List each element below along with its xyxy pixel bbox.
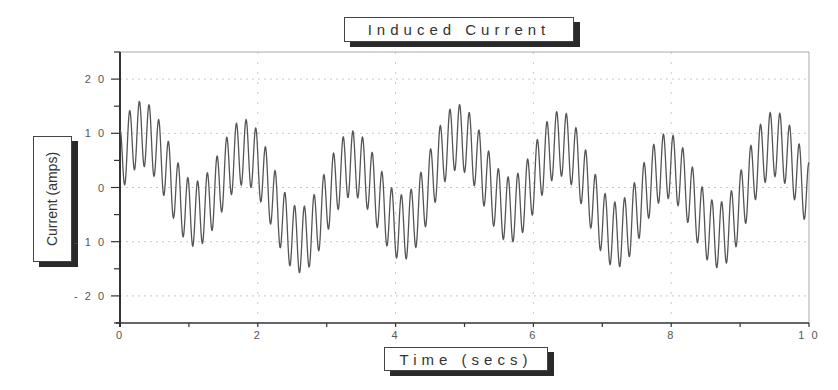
x-tick-label: 8	[667, 329, 675, 341]
y-tick-label: 2 0	[85, 73, 106, 85]
x-tick-label: 6	[529, 329, 537, 341]
y-tick-label: 1 0	[85, 127, 106, 139]
x-tick-label: 0	[116, 329, 124, 341]
current-waveform-line	[120, 101, 809, 272]
y-tick-label: - 2 0	[74, 290, 106, 302]
y-tick-label: - 1 0	[74, 236, 106, 248]
plot-area: 2 01 00- 1 0- 2 0024681 0	[0, 0, 838, 390]
y-tick-label: 0	[98, 182, 106, 194]
x-tick-label: 2	[254, 329, 262, 341]
x-tick-label: 1 0	[798, 329, 819, 341]
x-tick-label: 4	[392, 329, 400, 341]
